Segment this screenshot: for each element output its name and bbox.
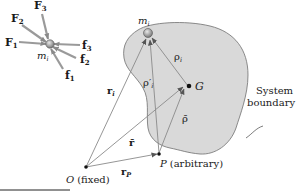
force-small-f3-arrow bbox=[54, 44, 80, 45]
vector-r-i bbox=[86, 39, 146, 167]
label-f3: f3 bbox=[82, 39, 92, 53]
force-f3-arrow bbox=[42, 14, 48, 39]
particle-mi-icon bbox=[144, 29, 153, 38]
label-boundary: boundary bbox=[247, 97, 295, 108]
inset-particle-icon bbox=[46, 40, 54, 48]
center-of-mass-point bbox=[187, 84, 192, 89]
label-r-bar: r̄ bbox=[129, 137, 135, 148]
label-mi: mi bbox=[138, 15, 150, 28]
system-body-region bbox=[124, 23, 248, 155]
boundary-leader-line bbox=[246, 126, 263, 138]
inset-label-mi: mi bbox=[37, 50, 49, 63]
label-r-p: rP bbox=[121, 166, 132, 179]
label-F3: F3 bbox=[34, 0, 47, 13]
point-p bbox=[157, 152, 161, 156]
inset-free-body: F1 F2 F3 f3 f2 f1 mi bbox=[5, 0, 92, 83]
label-G: G bbox=[195, 80, 204, 93]
origin-point bbox=[84, 165, 88, 169]
label-F2: F2 bbox=[11, 12, 24, 26]
force-f2-arrow bbox=[22, 25, 46, 42]
label-r-i: ri bbox=[107, 85, 115, 98]
label-point-p: P(arbitrary) bbox=[159, 158, 223, 169]
particle-system-diagram: F1 F2 F3 f3 f2 f1 mi mi ρi ρ′i ri G ρ̄ r… bbox=[0, 0, 297, 191]
label-F1: F1 bbox=[5, 36, 18, 50]
label-f1: f1 bbox=[65, 69, 75, 83]
label-system: System bbox=[256, 85, 294, 96]
label-origin: O(fixed) bbox=[66, 174, 110, 185]
label-rho-bar: ρ̄ bbox=[182, 113, 188, 124]
label-f2: f2 bbox=[80, 53, 90, 67]
force-f1-arrow bbox=[19, 42, 46, 44]
